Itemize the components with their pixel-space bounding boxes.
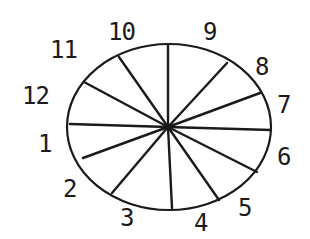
spoke-line (119, 57, 168, 127)
spoke-line (168, 63, 227, 127)
spoke-line (168, 127, 257, 172)
number-label: 9 (203, 18, 216, 46)
number-label: 11 (50, 36, 77, 64)
clock-diagram: 109876543211211 (0, 0, 310, 239)
number-label: 4 (194, 209, 208, 237)
number-label: 7 (277, 91, 290, 119)
spoke-line (168, 127, 271, 130)
number-label: 2 (63, 175, 76, 203)
spoke-line (70, 124, 168, 127)
number-label: 10 (108, 18, 135, 46)
number-label: 8 (255, 53, 268, 81)
number-label: 3 (120, 204, 133, 232)
number-label: 5 (238, 194, 251, 222)
spoke-line (84, 82, 168, 127)
spoke-line (168, 127, 172, 208)
number-label: 6 (277, 143, 290, 171)
number-label: 1 (38, 130, 51, 158)
number-label: 12 (22, 82, 49, 110)
spoke-line (168, 127, 219, 200)
spoke-line (168, 93, 260, 127)
diagram-center-hub (166, 125, 171, 130)
